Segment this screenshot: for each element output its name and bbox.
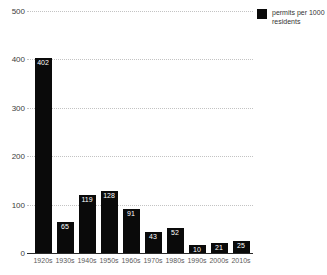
bar-1930s: 65 (57, 222, 74, 253)
bar-value-label: 21 (211, 244, 228, 252)
gridline-500 (27, 11, 253, 12)
y-axis-tick-300: 300 (0, 104, 25, 113)
y-axis-tick-400: 400 (0, 55, 25, 64)
bar-value-label: 128 (101, 192, 118, 200)
bar-chart: 40265119128914352102125 permits per 1000… (0, 0, 327, 275)
bar-2010s: 25 (233, 241, 250, 253)
gridline-100 (27, 205, 253, 206)
bar-1960s: 91 (123, 209, 140, 253)
bar-1940s: 119 (79, 195, 96, 253)
bar-1980s: 52 (167, 228, 184, 253)
bar-1970s: 43 (145, 232, 162, 253)
y-axis-tick-0: 0 (0, 249, 25, 258)
y-axis-tick-200: 200 (0, 152, 25, 161)
gridline-0 (27, 253, 253, 254)
bar-1950s: 128 (101, 191, 118, 253)
bar-1990s: 10 (189, 245, 206, 253)
legend-label: permits per 1000 residents (272, 8, 325, 26)
bar-1920s: 402 (35, 58, 52, 253)
legend-label-line2: residents (272, 17, 325, 26)
bar-value-label: 25 (233, 242, 250, 250)
legend-swatch-icon (257, 9, 267, 19)
y-axis-tick-100: 100 (0, 201, 25, 210)
gridline-300 (27, 108, 253, 109)
bar-value-label: 402 (35, 59, 52, 67)
y-axis-tick-500: 500 (0, 7, 25, 16)
bar-value-label: 119 (79, 196, 96, 204)
bar-value-label: 91 (123, 210, 140, 218)
gridline-400 (27, 59, 253, 60)
legend-label-line1: permits per 1000 (272, 8, 325, 17)
bar-value-label: 52 (167, 229, 184, 237)
bar-value-label: 65 (57, 223, 74, 231)
bar-value-label: 10 (189, 246, 206, 254)
bar-2000s: 21 (211, 243, 228, 253)
legend: permits per 1000 residents (257, 8, 325, 26)
bar-value-label: 43 (145, 233, 162, 241)
plot-area: 40265119128914352102125 (30, 11, 253, 253)
x-axis-tick-2010s: 2010s (228, 257, 254, 265)
gridline-200 (27, 156, 253, 157)
